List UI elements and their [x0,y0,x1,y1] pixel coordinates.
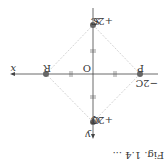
label-P: P [137,63,144,74]
diagram-svg: S +2C P −2C Q +2C R O x y Fig. 1.4 ... [0,0,166,160]
charge-diagram: S +2C P −2C Q +2C R O x y Fig. 1.4 ... [0,0,166,160]
label-R: R [43,63,51,74]
label-y-axis: y [85,130,92,141]
caption: Fig. 1.4 ... [112,150,164,160]
label-P-charge: −2C [135,78,158,89]
label-Q-charge: +2C [90,115,113,126]
label-origin: O [83,63,91,74]
label-x-axis: x [10,64,16,75]
label-S-charge: +2C [90,16,113,27]
